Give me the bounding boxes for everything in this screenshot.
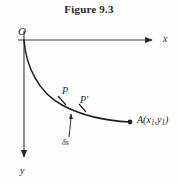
figure-drawing-canvas bbox=[0, 0, 178, 184]
point-a-label-suffix: ) bbox=[165, 114, 168, 125]
y-axis-label: y bbox=[20, 166, 24, 176]
point-p-label: P bbox=[62, 86, 68, 96]
point-a-label: A(x1,y1) bbox=[137, 115, 168, 127]
arc-element-label: δs bbox=[62, 139, 69, 147]
figure-container: Figure 9.3 O x y P P bbox=[0, 0, 178, 184]
brachistochrone-curve bbox=[24, 40, 130, 122]
point-pprime-label: P' bbox=[80, 95, 88, 105]
point-a-dot-icon bbox=[128, 120, 133, 125]
origin-label: O bbox=[18, 26, 26, 37]
arc-element-arrow-icon bbox=[69, 114, 71, 137]
point-pprime-tick-icon bbox=[79, 104, 86, 112]
point-a-label-prefix: A(x bbox=[137, 114, 151, 125]
x-axis-label: x bbox=[163, 34, 167, 44]
